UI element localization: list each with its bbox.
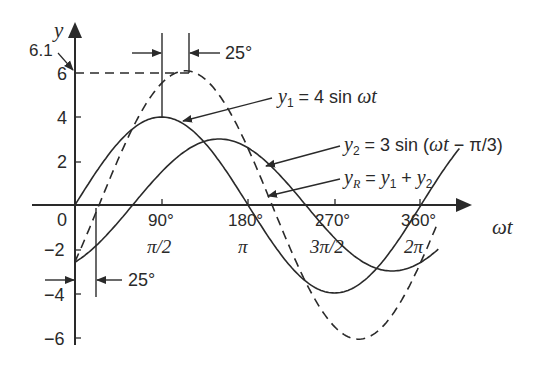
phase-shift-bottom-label: 25° xyxy=(128,271,155,289)
peak-value-label: 6.1 xyxy=(29,42,53,59)
x-tick-pi-over-2: π/2 xyxy=(147,237,171,256)
equation-y1: y1 = 4 sin ωt xyxy=(278,86,377,109)
x-tick-180: 180° xyxy=(228,212,263,229)
x-tick-pi: π xyxy=(238,237,248,256)
y-tick-neg6: −6 xyxy=(44,330,65,348)
y-tick-neg2: −2 xyxy=(44,241,65,259)
x-tick-90: 90° xyxy=(148,212,174,229)
y2-leader xyxy=(266,146,340,166)
y1-leader xyxy=(183,98,272,121)
x-tick-270: 270° xyxy=(315,212,350,229)
equation-yR: yR = y1 + y2 xyxy=(344,167,432,190)
y-tick-6: 6 xyxy=(57,65,67,83)
y-tick-4: 4 xyxy=(57,109,67,127)
phasor-waveform-diagram xyxy=(0,0,544,376)
yR-leader xyxy=(268,179,340,196)
y-tick-neg4: −4 xyxy=(44,286,65,304)
equation-y2: y2 = 3 sin (ωt − π/3) xyxy=(344,134,503,157)
x-axis-arrow-icon xyxy=(456,198,472,212)
y-tick-2: 2 xyxy=(57,153,67,171)
x-tick-3pi-over-2: 3π/2 xyxy=(310,237,344,256)
y-axis-label: y xyxy=(54,20,63,41)
y-axis xyxy=(68,22,82,345)
y-axis-arrow-icon xyxy=(68,22,82,38)
phase-shift-top-label: 25° xyxy=(225,44,252,62)
y-tick-0: 0 xyxy=(57,211,67,229)
x-tick-2pi: 2π xyxy=(404,237,423,256)
x-axis-label: ωt xyxy=(492,217,513,238)
x-tick-360: 360° xyxy=(401,212,436,229)
